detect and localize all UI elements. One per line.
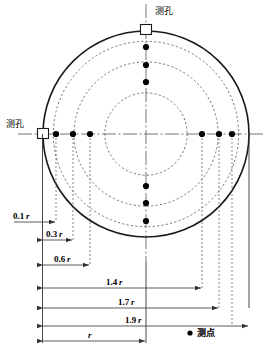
legend-marker-icon (187, 330, 192, 335)
extension-lines (56, 134, 232, 326)
legend-label: 测点 (197, 328, 215, 338)
measuring-point (199, 131, 205, 137)
measuring-point (143, 183, 149, 189)
dimension-label-03r: 0.3 r (46, 229, 63, 239)
dimension-label-19r: 1.9 r (125, 315, 142, 325)
measuring-point (143, 62, 149, 68)
port-left (38, 129, 49, 139)
measuring-point (143, 44, 149, 50)
measuring-point-diagram (0, 0, 267, 347)
measuring-point (70, 131, 76, 137)
dimension-label-06r: 0.6 r (54, 254, 71, 264)
port-top (141, 25, 152, 35)
port-left-label: 测孔 (6, 119, 24, 129)
measuring-point (53, 131, 59, 137)
measuring-point (87, 131, 93, 137)
measuring-point (143, 79, 149, 85)
dimension-label-17r: 1.7 r (118, 297, 135, 307)
port-top-label: 测孔 (155, 6, 173, 16)
port-left-rect (38, 129, 49, 139)
measuring-point (216, 131, 222, 137)
dimension-label-14r: 1.4 r (106, 277, 123, 287)
dimension-label-01r: 0.1 r (13, 211, 30, 221)
measuring-point (143, 200, 149, 206)
port-top-rect (141, 25, 152, 35)
measuring-point (143, 218, 149, 224)
dimension-label-r: r (88, 330, 92, 340)
measuring-point (229, 131, 235, 137)
